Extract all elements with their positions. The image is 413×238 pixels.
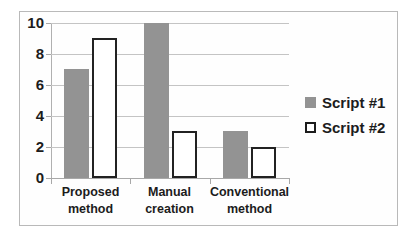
gridline (51, 23, 289, 24)
y-axis-tick-label: 8 (20, 46, 44, 61)
x-axis-category-label: Conventional method (202, 184, 297, 218)
bar-script-1 (64, 69, 89, 178)
y-axis-tick (46, 147, 51, 148)
legend-label-script-2: Script #2 (322, 119, 385, 136)
y-axis-tick (46, 23, 51, 24)
plot-area (51, 23, 289, 178)
x-axis-tick (130, 179, 131, 184)
x-axis-tick (51, 179, 52, 184)
legend-label-script-1: Script #1 (322, 94, 385, 111)
y-axis-tick (46, 116, 51, 117)
y-axis-tick-label: 10 (20, 15, 44, 30)
bar-script-1 (144, 23, 169, 178)
legend-item-script-2[interactable]: Script #2 (305, 115, 397, 140)
y-axis-tick-label: 6 (20, 77, 44, 92)
y-axis-tick-labels: 0246810 (20, 12, 44, 225)
x-axis-tick (289, 179, 290, 184)
y-axis-tick-label: 0 (20, 170, 44, 185)
y-axis-tick-label: 2 (20, 139, 44, 154)
legend-swatch-script-2-icon (305, 122, 316, 133)
bar-script-2 (172, 131, 197, 178)
bar-script-2 (251, 147, 276, 178)
y-axis-tick-label: 4 (20, 108, 44, 123)
chart-figure: 0246810 Proposed methodManual creationCo… (19, 11, 398, 226)
x-axis-category-labels: Proposed methodManual creationConvention… (51, 184, 290, 226)
legend-item-script-1[interactable]: Script #1 (305, 90, 397, 115)
y-axis-tick (46, 85, 51, 86)
gridline (51, 178, 289, 179)
chart-legend: Script #1 Script #2 (305, 90, 397, 140)
gridline (51, 54, 289, 55)
bar-script-2 (92, 38, 117, 178)
bar-script-1 (223, 131, 248, 178)
y-axis-tick (46, 54, 51, 55)
x-axis-tick (210, 179, 211, 184)
legend-swatch-script-1-icon (305, 97, 316, 108)
